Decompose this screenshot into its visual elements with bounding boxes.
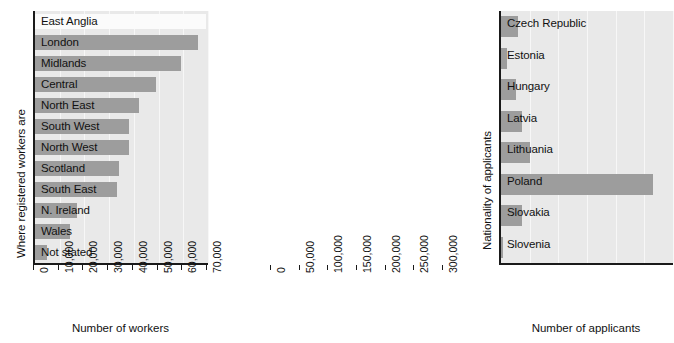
x-axis-tick bbox=[442, 265, 443, 270]
y-axis-title-right: Nationality of applicants bbox=[481, 131, 493, 250]
bar-category-label: Estonia bbox=[507, 48, 545, 63]
bar-row: Central bbox=[35, 77, 208, 92]
gridline bbox=[208, 11, 209, 263]
x-axis-tick-label: 100,000 bbox=[332, 235, 344, 273]
bar-row: North East bbox=[35, 98, 208, 113]
bar-category-label: Lithuania bbox=[507, 142, 553, 157]
bar-category-label: Scotland bbox=[41, 161, 85, 176]
bar-row: Poland bbox=[501, 174, 673, 195]
x-axis-tick bbox=[33, 265, 34, 270]
x-axis-tick-label: 50,000 bbox=[304, 241, 316, 273]
bar-category-label: Czech Republic bbox=[507, 16, 586, 31]
x-axis-tick-label: 150,000 bbox=[361, 235, 373, 273]
bar-category-label: London bbox=[41, 35, 79, 50]
bar-category-label: N. Ireland bbox=[41, 203, 90, 218]
bar-category-label: South West bbox=[41, 119, 99, 134]
x-axis-tick-label: 30,000 bbox=[112, 241, 124, 273]
x-axis-tick bbox=[327, 265, 328, 270]
bar-row: Wales bbox=[35, 224, 208, 239]
bar-row: Slovenia bbox=[501, 237, 673, 258]
bar-category-label: Latvia bbox=[507, 111, 537, 126]
x-axis-tick bbox=[132, 265, 133, 270]
bar-row: Slovakia bbox=[501, 205, 673, 226]
bar-category-label: East Anglia bbox=[41, 14, 97, 29]
bar-row: Czech Republic bbox=[501, 16, 673, 37]
x-axis-tick bbox=[58, 265, 59, 270]
x-axis-tick-label: 0 bbox=[275, 267, 287, 273]
x-axis-tick-label: 300,000 bbox=[447, 235, 459, 273]
chart-panel-applicants: Nationality of applicants Czech Republic… bbox=[229, 0, 458, 343]
x-axis-line-right bbox=[499, 263, 673, 265]
bar-category-label: Slovenia bbox=[507, 237, 550, 252]
x-axis-tick bbox=[299, 265, 300, 270]
bar-category-label: Wales bbox=[41, 224, 72, 239]
y-axis-title-left: Where registered workers are bbox=[15, 109, 27, 258]
bar-row: Estonia bbox=[501, 48, 673, 69]
bar-row: Scotland bbox=[35, 161, 208, 176]
bar-row: N. Ireland bbox=[35, 203, 208, 218]
bar-category-label: South East bbox=[41, 182, 96, 197]
bar-category-label: Hungary bbox=[507, 79, 550, 94]
x-axis-tick bbox=[413, 265, 414, 270]
bar-row: Midlands bbox=[35, 56, 208, 71]
x-axis-tick-label: 60,000 bbox=[186, 241, 198, 273]
x-axis-title-right: Number of applicants bbox=[499, 322, 673, 334]
bar-row: Latvia bbox=[501, 111, 673, 132]
chart-panel-workers: Where registered workers are East Anglia… bbox=[0, 0, 229, 343]
x-axis-tick bbox=[181, 265, 182, 270]
bar-category-label: Central bbox=[41, 77, 77, 92]
bar-row: London bbox=[35, 35, 208, 50]
plot-area-right: Czech RepublicEstoniaHungaryLatviaLithua… bbox=[499, 11, 673, 263]
x-axis-tick-label: 200,000 bbox=[390, 235, 402, 273]
bar-category-label: Poland bbox=[507, 174, 542, 189]
bar-row: South East bbox=[35, 182, 208, 197]
plot-area-left: East AngliaLondonMidlandsCentralNorth Ea… bbox=[33, 11, 208, 263]
bar-row: North West bbox=[35, 140, 208, 155]
x-axis-tick-label: 40,000 bbox=[137, 241, 149, 273]
x-axis-tick-label: 20,000 bbox=[87, 241, 99, 273]
x-axis-tick bbox=[107, 265, 108, 270]
caption-strip bbox=[0, 338, 458, 343]
x-axis-tick bbox=[206, 265, 207, 270]
bar-row: Hungary bbox=[501, 79, 673, 100]
x-axis-tick-label: 70,000 bbox=[211, 241, 223, 273]
bar bbox=[501, 237, 503, 258]
bar bbox=[501, 48, 507, 69]
x-axis-tick-label: 0 bbox=[38, 267, 50, 273]
bar-category-label: Slovakia bbox=[507, 205, 550, 220]
x-axis-tick-label: 50,000 bbox=[162, 241, 174, 273]
x-axis-tick-label: 10,000 bbox=[63, 241, 75, 273]
x-axis-tick bbox=[157, 265, 158, 270]
x-axis-tick bbox=[356, 265, 357, 270]
x-axis-tick bbox=[82, 265, 83, 270]
bar-row: South West bbox=[35, 119, 208, 134]
x-axis-tick bbox=[385, 265, 386, 270]
x-axis-tick-label: 250,000 bbox=[418, 235, 430, 273]
x-axis-title-left: Number of workers bbox=[33, 322, 208, 334]
bar-row: Lithuania bbox=[501, 142, 673, 163]
bar-category-label: North East bbox=[41, 98, 94, 113]
x-axis-tick bbox=[270, 265, 271, 270]
bar-category-label: Midlands bbox=[41, 56, 86, 71]
bar-category-label: North West bbox=[41, 140, 97, 155]
bar-row: East Anglia bbox=[35, 14, 208, 29]
